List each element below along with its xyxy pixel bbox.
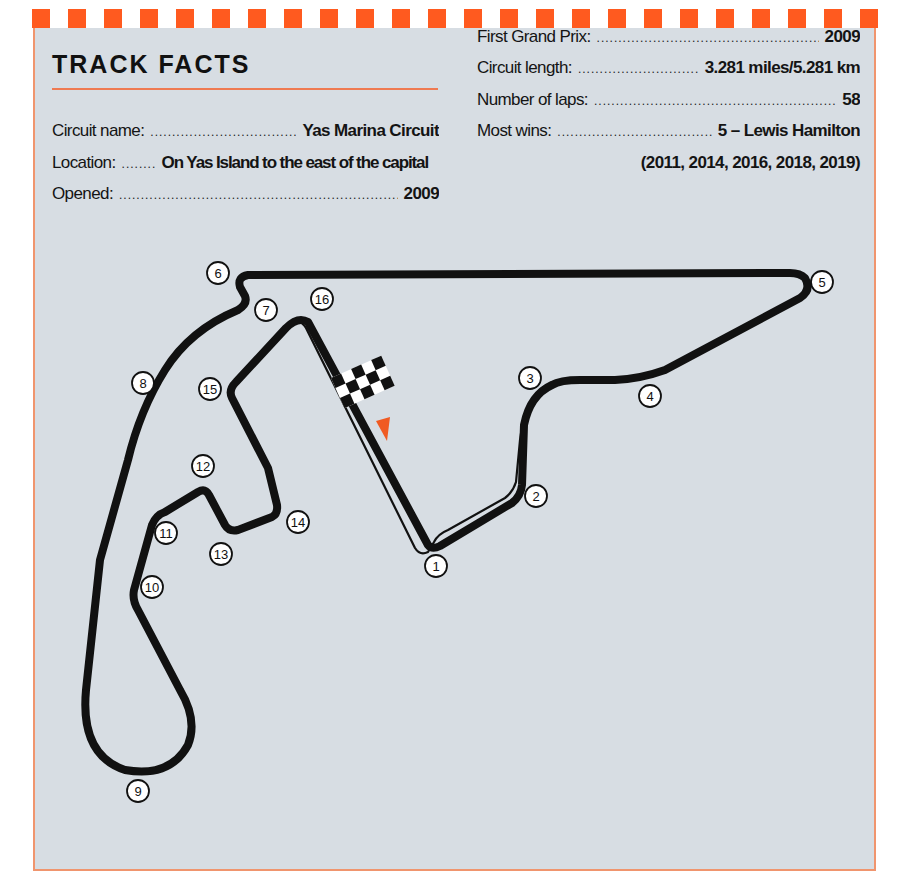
turn-marker-5: 5 bbox=[811, 271, 833, 293]
svg-text:13: 13 bbox=[214, 547, 228, 562]
svg-text:14: 14 bbox=[291, 515, 305, 530]
turn-marker-1: 1 bbox=[425, 555, 447, 577]
svg-text:4: 4 bbox=[646, 389, 653, 404]
turn-marker-12: 12 bbox=[192, 455, 214, 477]
turn-marker-14: 14 bbox=[287, 511, 309, 533]
turn-marker-4: 4 bbox=[639, 385, 661, 407]
turn-marker-16: 16 bbox=[311, 288, 333, 310]
svg-text:7: 7 bbox=[262, 303, 269, 318]
turn-marker-11: 11 bbox=[155, 522, 177, 544]
svg-text:8: 8 bbox=[139, 376, 146, 391]
svg-text:10: 10 bbox=[145, 580, 159, 595]
turn-marker-2: 2 bbox=[525, 485, 547, 507]
svg-text:9: 9 bbox=[134, 784, 141, 799]
direction-arrow-icon bbox=[376, 417, 390, 441]
svg-text:15: 15 bbox=[203, 382, 217, 397]
svg-text:1: 1 bbox=[432, 559, 439, 574]
track-map: 12345678910111213141516 bbox=[0, 0, 903, 885]
turn-marker-9: 9 bbox=[127, 780, 149, 802]
svg-text:5: 5 bbox=[818, 275, 825, 290]
turn-marker-3: 3 bbox=[519, 367, 541, 389]
turn-marker-10: 10 bbox=[141, 576, 163, 598]
turn-marker-7: 7 bbox=[255, 299, 277, 321]
checkered-flag-icon bbox=[331, 356, 395, 409]
turn-marker-15: 15 bbox=[199, 378, 221, 400]
main-track bbox=[85, 273, 807, 772]
turn-marker-13: 13 bbox=[210, 543, 232, 565]
svg-text:11: 11 bbox=[159, 526, 173, 541]
svg-text:3: 3 bbox=[526, 371, 533, 386]
svg-text:6: 6 bbox=[214, 266, 221, 281]
turn-marker-6: 6 bbox=[207, 262, 229, 284]
svg-text:2: 2 bbox=[532, 489, 539, 504]
turn-marker-8: 8 bbox=[132, 372, 154, 394]
svg-text:12: 12 bbox=[196, 459, 210, 474]
svg-text:16: 16 bbox=[315, 292, 329, 307]
